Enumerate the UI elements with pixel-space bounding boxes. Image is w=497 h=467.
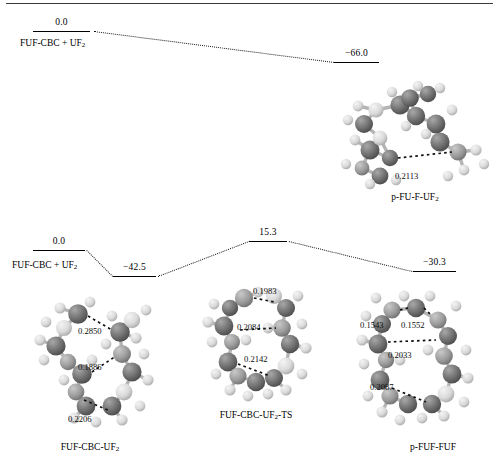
distance-label-m4-d1: 0.1543: [360, 320, 384, 330]
molecule-label-p-FU-F-UF2: p-FU-F-UF2: [360, 192, 470, 203]
energy-profile-figure: 0.0 FUF-CBC + UF2 −66.0: [0, 0, 497, 467]
distance-label-m3-d3: 0.2142: [244, 354, 268, 364]
molecule-3-structure: [190, 282, 325, 410]
mol-label-text: FUF-CBC-UF: [61, 442, 116, 452]
connector-top-reactant-to-product: [94, 31, 334, 63]
mol-label-tail: -TS: [278, 410, 292, 420]
species-label-top-reactant: FUF-CBC + UF2: [20, 38, 85, 49]
level-bar-top-product: [334, 62, 379, 63]
level-value-transition-state: 15.3: [249, 227, 287, 237]
molecule-4-structure: [348, 290, 488, 438]
distance-label-m3-d1: 0.1983: [253, 286, 277, 296]
species-subscript: 2: [82, 41, 86, 49]
distance-label-m3-d2: 0.2084: [237, 322, 261, 332]
molecule-FUF-CBC-UF2: 0.2850 0.1886 0.2206: [16, 288, 166, 438]
species-subscript: 2: [74, 263, 78, 271]
hbond-dashed-3: [388, 340, 436, 342]
level-value-product: −30.3: [413, 257, 456, 267]
level-bar-complex: [113, 276, 156, 277]
mol-label-text: FUF-CBC-UF: [220, 410, 275, 420]
top-divider-rule: [6, 3, 493, 4]
molecule-label-FUF-CBC-UF2-TS: FUF-CBC-UF2-TS: [186, 410, 326, 421]
distance-label-m4-d3: 0.2033: [388, 350, 412, 360]
connector-reactant-to-complex: [86, 250, 113, 277]
molecule-label-p-FUF-FUF: p-FUF-FUF: [378, 442, 488, 452]
level-bar-product: [413, 271, 456, 272]
level-bar-top-reactant: [33, 31, 90, 32]
species-label-bottom-reactant: FUF-CBC + UF2: [12, 260, 77, 271]
mol-label-text: p-FUF-FUF: [410, 442, 456, 452]
level-value-top-reactant: 0.0: [33, 17, 90, 27]
level-value-complex: −42.5: [113, 262, 156, 272]
distance-label-m2-d3: 0.2206: [68, 414, 92, 424]
level-value-top-product: −66.0: [334, 48, 379, 58]
species-text: FUF-CBC + UF: [20, 38, 82, 48]
mol-label-sub: 2: [435, 195, 439, 203]
distance-label-m2-d1: 0.2850: [78, 326, 102, 336]
mol-label-sub: 2: [116, 445, 120, 453]
distance-label-m2-d2: 0.1886: [78, 362, 102, 372]
hbond-dashed-1: [398, 152, 452, 158]
molecule-p-FUF-FUF: 0.1543 0.1552 0.2033 0.2087: [348, 290, 488, 438]
molecule-label-FUF-CBC-UF2: FUF-CBC-UF2: [30, 442, 150, 453]
molecule-FUF-CBC-UF2-TS: 0.1983 0.2084 0.2142: [190, 282, 325, 410]
level-value-bottom-reactant: 0.0: [33, 236, 85, 246]
distance-label-m1-d1: 0.2113: [395, 171, 418, 181]
level-bar-bottom-reactant: [33, 250, 85, 251]
distance-label-m4-d4: 0.2087: [370, 382, 394, 392]
level-bar-transition-state: [249, 241, 287, 242]
connector-complex-to-ts: [158, 241, 249, 277]
mol-label-text: p-FU-F-UF: [391, 192, 435, 202]
molecule-p-FU-F-UF2: 0.2113: [318, 80, 497, 192]
species-text: FUF-CBC + UF: [12, 260, 74, 270]
distance-label-m4-d2: 0.1552: [401, 320, 425, 330]
connector-ts-to-product: [289, 241, 412, 272]
